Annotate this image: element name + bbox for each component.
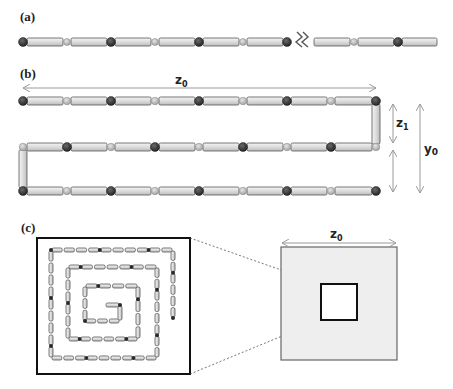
rod [94,265,105,269]
rod [155,268,159,277]
rod [171,296,175,305]
dark-bead [49,248,53,252]
panel-b-label: (b) [20,66,36,81]
dark-bead [239,143,248,152]
dark-bead [130,265,134,269]
dark-bead [84,356,88,360]
dark-bead [147,248,151,252]
rod [66,280,70,290]
rod [66,292,70,302]
rod [107,265,118,269]
dark-bead [195,97,204,106]
rod [71,97,107,105]
rod [49,287,53,297]
rod [136,300,140,311]
dark-bead [66,301,70,305]
rod [66,316,70,326]
rod [113,248,123,252]
rod [247,38,283,46]
rod [136,327,140,338]
dark-bead [124,337,128,341]
rod [159,143,195,151]
rod [137,248,147,252]
rod [155,314,159,323]
rod [159,97,195,105]
polymer-chain-diagram: (a) (b) (c) z0 z1 y0 z0 [0,0,453,389]
rod [203,187,239,195]
rod [49,251,53,261]
rod [71,38,107,46]
dark-bead [131,356,135,360]
rod [116,337,126,341]
rod [98,319,108,323]
rod [150,248,160,252]
rod [146,356,156,360]
dark-bead [107,97,116,106]
panel-c-label: (c) [21,220,35,235]
rod [335,97,372,105]
rod [171,251,175,260]
dark-bead [107,38,116,47]
dark-bead [151,143,160,152]
dark-bead [155,288,159,292]
rod [104,337,114,341]
rod [76,248,86,252]
rod [171,285,175,294]
rod [27,143,63,151]
rod [49,299,53,309]
rod [203,97,239,105]
rod [155,291,159,300]
light-bead [327,97,335,105]
rod [19,150,27,188]
straight-chain-a [19,38,438,47]
dark-bead [107,187,116,196]
rod [155,302,159,311]
light-bead [195,143,203,151]
light-bead [240,39,247,46]
dark-bead [78,337,82,341]
rod [83,310,87,320]
rod [291,187,327,195]
rod [115,97,151,105]
rod [69,337,79,341]
rod [71,187,107,195]
rod [49,335,53,345]
rod [86,319,96,323]
rod [134,356,144,360]
zoom-region-square [321,284,357,320]
dark-bead [171,271,175,275]
rod [101,248,111,252]
rod [133,265,144,269]
rod [49,275,53,285]
rod [52,248,62,252]
rod [49,311,53,321]
dark-bead [283,97,292,106]
rod [171,308,175,317]
dark-bead [83,319,87,323]
dark-bead [283,187,292,196]
rod [203,38,239,46]
rod [81,337,91,341]
rod [247,143,283,151]
rod [87,356,97,360]
light-bead [327,187,335,195]
rod [136,314,140,325]
light-bead [151,97,159,105]
dark-bead [49,344,53,348]
dark-bead [49,296,53,300]
rod [69,265,80,269]
rod [71,143,107,151]
dark-bead [372,97,381,106]
light-bead [63,97,71,105]
rod [115,38,151,46]
rod [372,104,380,144]
dark-bead [394,38,403,47]
rod [171,274,175,283]
rod [162,248,172,252]
light-bead [351,39,358,46]
rod [125,248,135,252]
rod [126,284,137,288]
light-bead [19,143,27,151]
dark-bead [19,97,28,106]
rod [27,38,63,46]
